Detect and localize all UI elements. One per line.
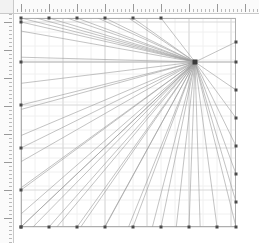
anchor-node[interactable] [20, 104, 23, 107]
anchor-node[interactable] [76, 226, 79, 229]
anchor-node[interactable] [48, 226, 51, 229]
anchor-node[interactable] [235, 89, 238, 92]
anchor-node[interactable] [132, 17, 135, 20]
anchor-node[interactable] [104, 17, 107, 20]
anchor-node[interactable] [160, 226, 163, 229]
anchor-node[interactable] [235, 226, 238, 229]
anchor-node[interactable] [235, 61, 238, 64]
anchor-node[interactable] [20, 147, 23, 150]
scene-svg[interactable] [0, 0, 259, 243]
ruler-corner[interactable] [0, 0, 14, 14]
anchor-node[interactable] [104, 226, 107, 229]
anchor-node[interactable] [20, 226, 23, 229]
canvas-background [21, 18, 236, 227]
anchor-node[interactable] [235, 41, 238, 44]
horizontal-ruler-ticks [0, 0, 259, 13]
anchor-node[interactable] [160, 17, 163, 20]
anchor-node[interactable] [235, 173, 238, 176]
vertical-ruler-ticks [0, 0, 13, 243]
anchor-node[interactable] [188, 226, 191, 229]
horizontal-ruler[interactable] [0, 0, 259, 14]
anchor-node[interactable] [20, 61, 23, 64]
anchor-node[interactable] [216, 226, 219, 229]
anchor-node[interactable] [20, 189, 23, 192]
anchor-node[interactable] [235, 201, 238, 204]
anchor-node[interactable] [20, 17, 23, 20]
anchor-node[interactable] [20, 21, 23, 24]
perspective-grid-app: Perspective Grid Canvas VP [0, 0, 259, 243]
vertical-ruler[interactable] [0, 0, 14, 243]
anchor-node[interactable] [76, 17, 79, 20]
anchor-node[interactable] [48, 17, 51, 20]
anchor-node[interactable] [132, 226, 135, 229]
vanishing-point[interactable] [193, 60, 198, 65]
canvas-stage[interactable] [0, 0, 259, 243]
anchor-node[interactable] [235, 117, 238, 120]
anchor-node[interactable] [235, 145, 238, 148]
